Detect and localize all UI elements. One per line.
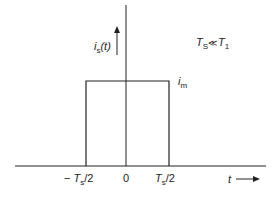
x-axis-label: t bbox=[228, 173, 232, 185]
amplitude-label: im bbox=[178, 75, 187, 90]
y-label-arrowhead-icon bbox=[114, 26, 120, 33]
pulse-diagram: is(t) TS≪T1 im − Ts/2 0 Ts/2 t bbox=[0, 0, 278, 203]
pulse-waveform bbox=[86, 81, 169, 166]
condition-label: TS≪T1 bbox=[196, 36, 230, 51]
y-axis-label: is(t) bbox=[94, 40, 111, 55]
tick-pos-half-period: Ts/2 bbox=[155, 172, 175, 187]
tick-neg-half-period: − Ts/2 bbox=[64, 172, 93, 187]
tick-zero: 0 bbox=[123, 172, 129, 184]
x-label-arrowhead-icon bbox=[253, 176, 260, 182]
